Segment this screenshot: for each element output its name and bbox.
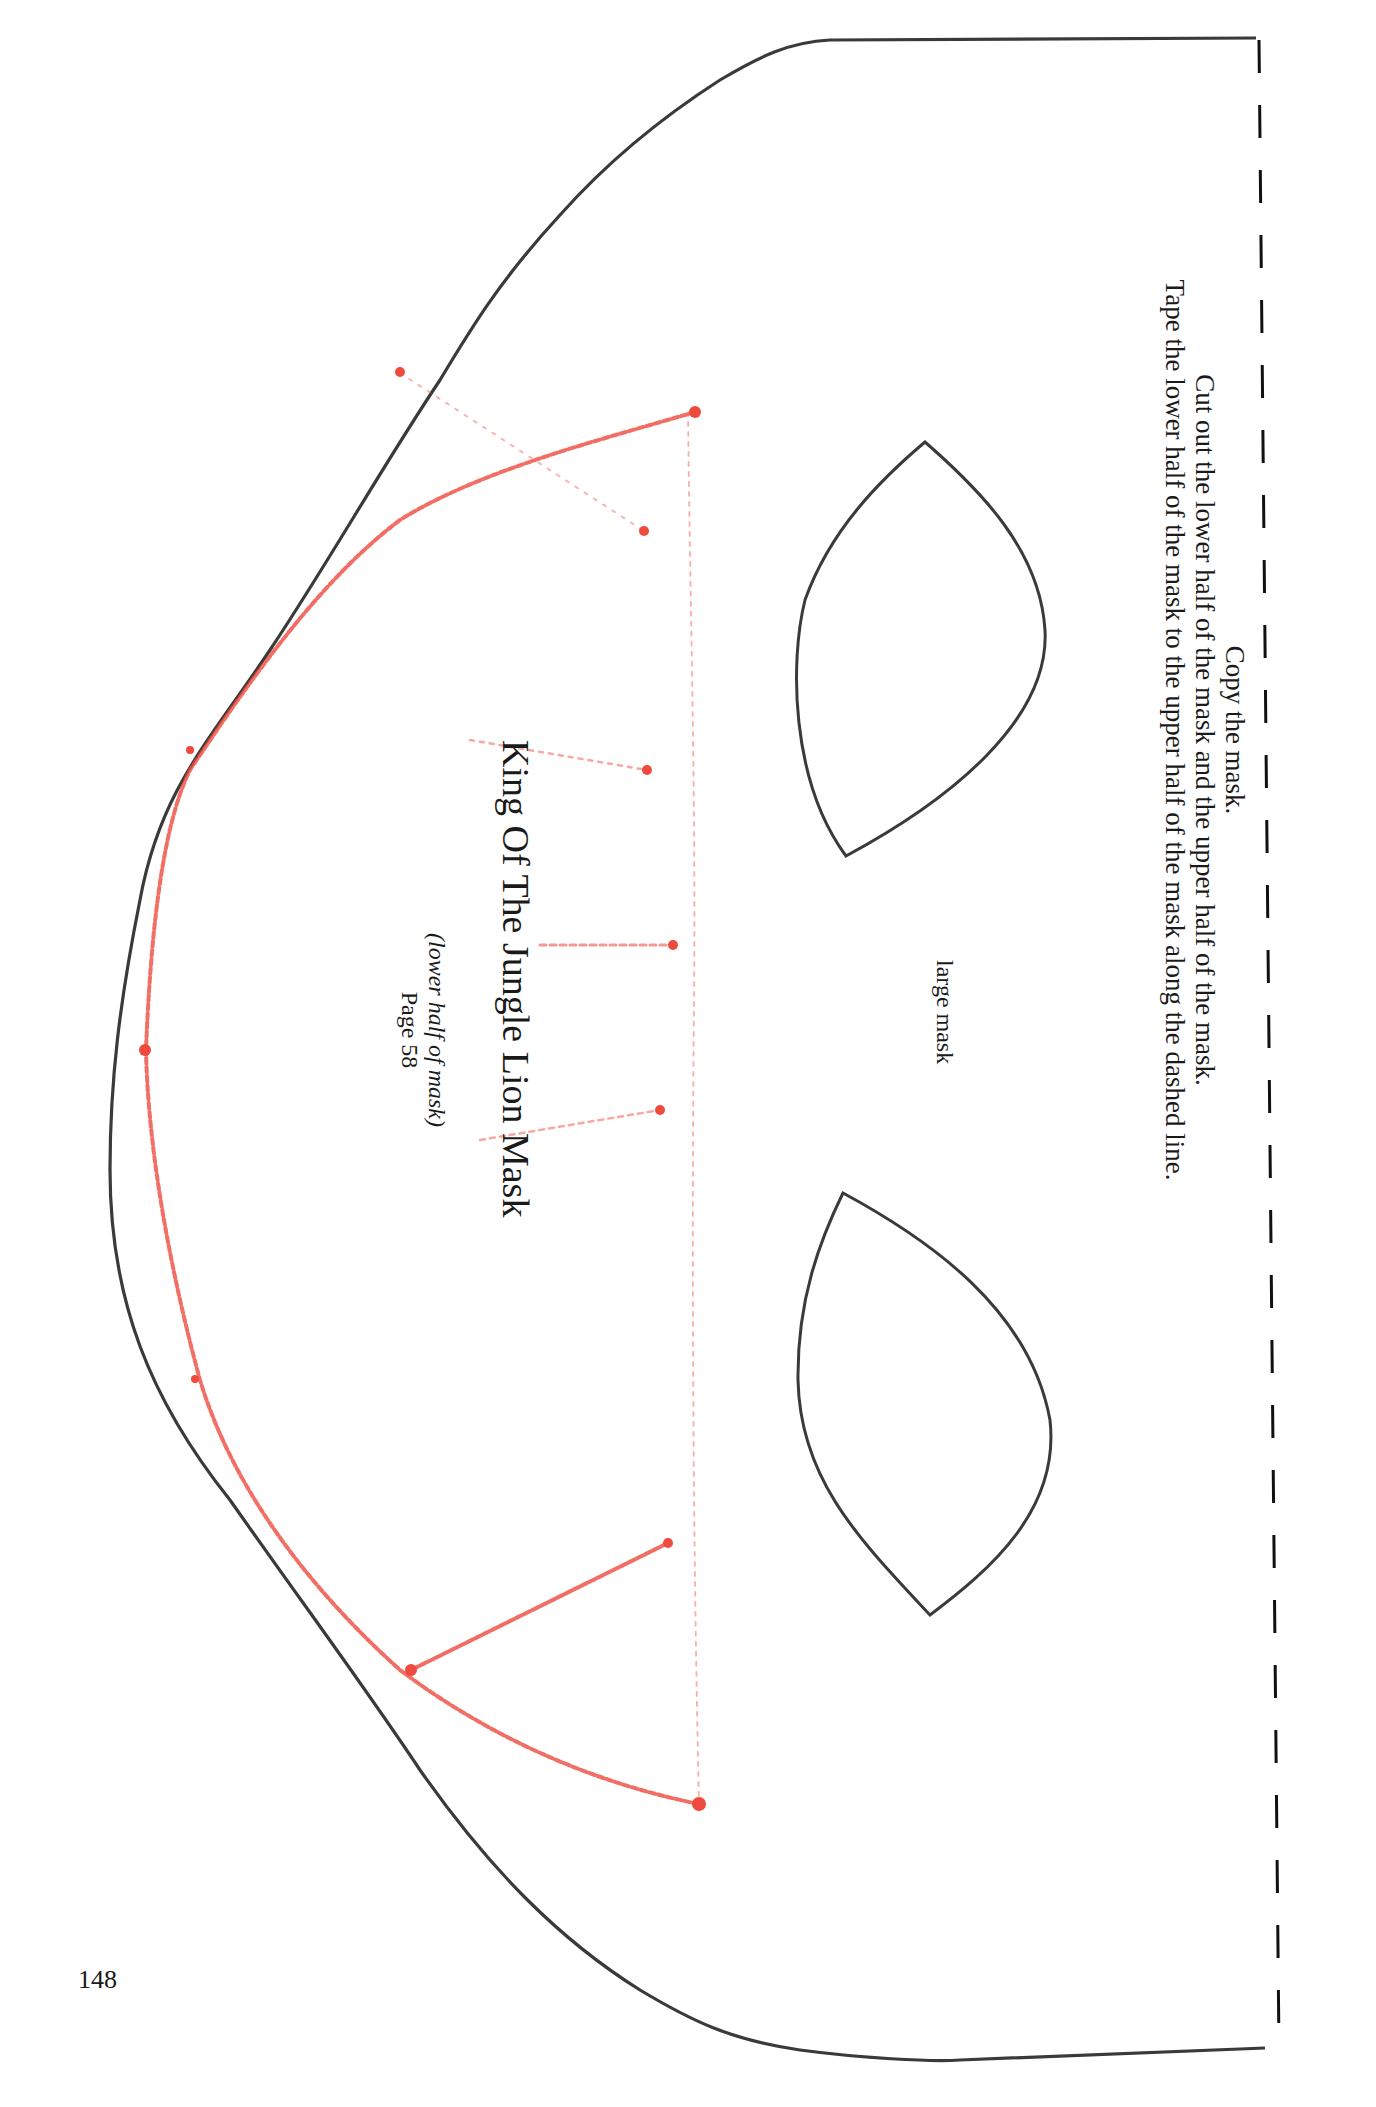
- mask-title: King Of The Jungle Lion Mask: [495, 740, 537, 1217]
- instruction-tape: Tape the lower half of the mask to the u…: [1160, 160, 1190, 1300]
- mask-template-page: Copy the mask. Cut out the lower half of…: [0, 0, 1376, 2107]
- instructions-block: Copy the mask. Cut out the lower half of…: [1160, 160, 1250, 1300]
- mask-outline: [110, 38, 1265, 2061]
- red-spoke: [411, 1543, 668, 1670]
- mask-subtitle: (lower half of mask): [423, 900, 450, 1160]
- instruction-copy: Copy the mask.: [1220, 160, 1250, 1300]
- eye-cutout-upper: [797, 442, 1046, 856]
- red-inner-line: [688, 412, 699, 1804]
- mask-subtitle-block: (lower half of mask) Page 58: [396, 900, 450, 1160]
- red-spoke: [400, 373, 644, 531]
- page-number: 148: [78, 1965, 117, 1995]
- eye-cutout-lower: [798, 1193, 1051, 1615]
- instruction-cut: Cut out the lower half of the mask and t…: [1190, 160, 1220, 1300]
- page-reference: Page 58: [396, 900, 423, 1160]
- eye-size-label: large mask: [932, 960, 958, 1064]
- dashed-fold-line: [1259, 40, 1279, 2050]
